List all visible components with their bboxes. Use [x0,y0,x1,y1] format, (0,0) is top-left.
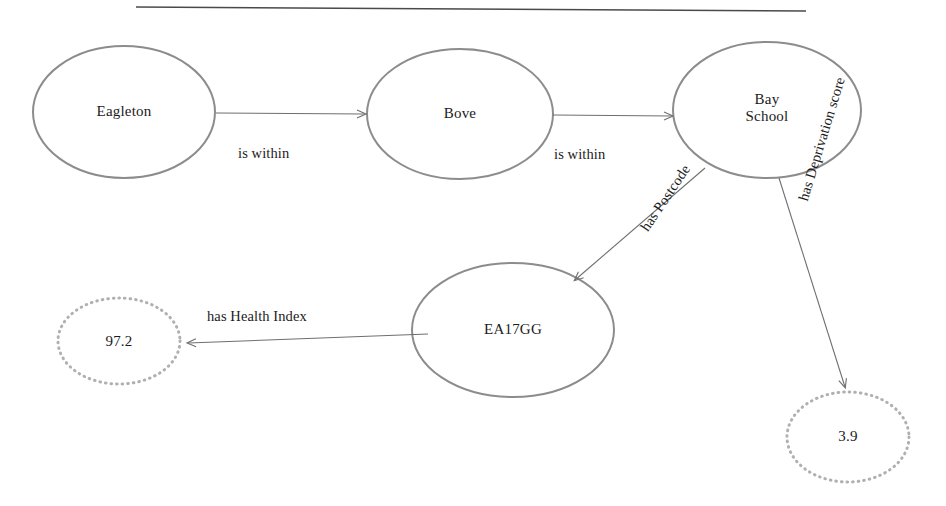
node-ellipse-deprivation-score-value[interactable] [787,392,909,482]
graph-svg [0,0,946,506]
edge-bay-school-has-postcode-ea17gg[interactable] [575,168,705,280]
node-ellipse-ea17gg[interactable] [412,263,614,397]
node-ellipse-eagleton[interactable] [33,46,215,178]
edge-eagleton-is-within-bove[interactable] [216,113,365,114]
node-ellipse-bay-school[interactable] [673,42,861,178]
edge-ea17gg-has-health-index[interactable] [188,334,428,343]
top-divider-rule [136,7,806,11]
diagram-canvas: Eagleton Bove Bay School EA17GG 97.2 3.9… [0,0,946,506]
node-ellipse-health-index-value[interactable] [58,298,180,384]
edge-bay-school-has-deprivation-score[interactable] [779,178,845,387]
edge-bove-is-within-bay-school[interactable] [553,115,672,116]
node-ellipse-bove[interactable] [367,49,553,179]
